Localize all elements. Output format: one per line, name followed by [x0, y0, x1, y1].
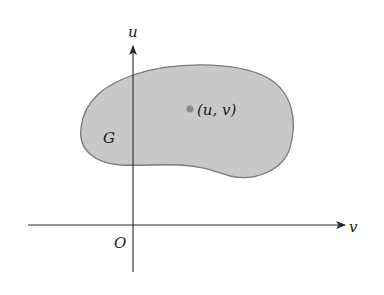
- diagram-canvas: u v O G (u, v): [0, 0, 384, 295]
- origin-label: O: [114, 234, 126, 252]
- v-axis-label: v: [349, 218, 358, 236]
- point-uv-label: (u, v): [197, 101, 237, 119]
- u-axis-label: u: [128, 23, 138, 41]
- region-g: [81, 65, 294, 178]
- region-label: G: [103, 129, 115, 147]
- point-uv-marker: [187, 106, 194, 113]
